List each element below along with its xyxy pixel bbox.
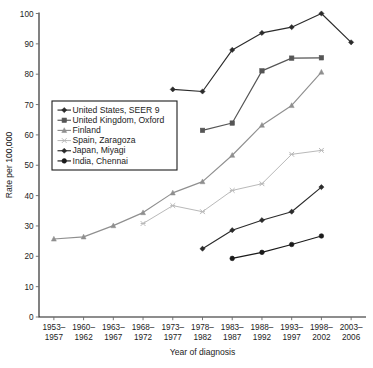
series-japan-miyagi [200,185,324,252]
y-tick-label: 40 [24,192,34,201]
y-tick-label: 100 [20,10,34,19]
y-tick-label: 50 [24,161,34,170]
legend-item-label: United Kingdom, Oxford [73,115,165,125]
marker-circle [319,234,324,239]
chart-figure: 0102030405060708090100Rate per 100,00019… [0,0,373,368]
y-tick-label: 90 [24,40,34,49]
legend-item-label: Finland [73,125,101,135]
marker-x [230,188,235,193]
legend-item-label: Spain, Zaragoza [73,135,136,145]
x-tick-label-bottom: 1972 [134,333,153,342]
marker-diamond [230,228,235,233]
marker-square [200,128,204,132]
marker-x [200,209,205,214]
marker-triangle [141,210,146,215]
marker-circle [62,159,67,164]
legend: United States, SEER 9United Kingdom, Oxf… [52,101,177,170]
x-tick-label-bottom: 1957 [45,333,64,342]
marker-square [319,56,323,60]
legend-item[interactable]: United Kingdom, Oxford [58,115,165,125]
series-united-states-seer-9 [170,11,354,94]
x-tick-label-bottom: 1997 [283,333,302,342]
series-line [232,236,321,258]
marker-square [230,121,234,125]
x-tick-label-bottom: 1982 [193,333,212,342]
y-tick-label: 10 [24,283,34,292]
x-tick-label-top: 1968– [132,323,155,332]
series-line [173,14,351,92]
x-tick-label-top: 1983– [221,323,244,332]
legend-item[interactable]: United States, SEER 9 [58,105,160,115]
x-tick-label-top: 1973– [161,323,184,332]
marker-diamond [289,25,294,30]
x-axis-title: Year of diagnosis [170,347,236,357]
x-tick-label-bottom: 2002 [312,333,331,342]
marker-triangle [319,69,324,74]
x-tick-label-bottom: 2006 [342,333,361,342]
marker-x [319,148,324,153]
caption-remnant [185,360,187,367]
x-tick-label-bottom: 1962 [74,333,93,342]
x-tick-label-top: 1998– [310,323,333,332]
x-tick-label-top: 1960– [72,323,95,332]
y-tick-label: 0 [29,313,34,322]
marker-circle [289,242,294,247]
legend-item-label: India, Chennai [73,156,129,166]
marker-x [260,181,265,186]
x-tick-label-top: 1963– [102,323,125,332]
legend-item-label: Japan, Miyagi [73,145,126,155]
marker-circle [260,250,265,255]
marker-x [289,152,294,157]
series-united-kingdom-oxford [200,56,323,133]
line-chart: 0102030405060708090100Rate per 100,00019… [0,0,373,368]
x-tick-label-top: 2003– [340,323,363,332]
x-tick-label-top: 1978– [191,323,214,332]
marker-square [62,118,66,122]
x-tick-label-top: 1953– [42,323,65,332]
marker-diamond [200,246,205,251]
y-tick-label: 30 [24,222,34,231]
marker-diamond [259,218,264,223]
y-tick-label: 20 [24,252,34,261]
marker-square [289,56,293,60]
marker-x [141,221,146,226]
x-tick-label-bottom: 1977 [164,333,183,342]
x-axis: 1953–19571960–19621963–19671968–19721973… [42,317,362,342]
y-axis: 0102030405060708090100 [20,10,39,323]
x-tick-label-bottom: 1967 [104,333,123,342]
x-tick-label-bottom: 1992 [253,333,272,342]
marker-circle [230,256,235,261]
series-india-chennai [230,234,324,261]
x-tick-label-top: 1988– [251,323,274,332]
marker-x [170,203,175,208]
y-axis-title: Rate per 100,000 [4,132,14,199]
marker-triangle [259,122,264,127]
y-tick-label: 70 [24,101,34,110]
marker-diamond [259,30,264,35]
marker-square [260,69,264,73]
x-tick-label-bottom: 1987 [223,333,242,342]
marker-diamond [170,87,175,92]
y-tick-label: 80 [24,70,34,79]
legend-item-label: United States, SEER 9 [73,105,160,115]
x-tick-label-top: 1993– [280,323,303,332]
y-tick-label: 60 [24,131,34,140]
